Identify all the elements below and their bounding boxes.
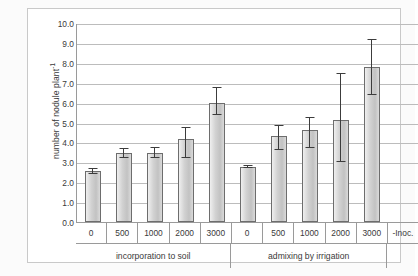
y-axis-tick-label: 3.0	[40, 158, 74, 168]
error-bar-cap-upper	[88, 168, 97, 169]
x-axis-tick-label: 3000	[201, 223, 232, 243]
y-axis-tick-label: 2.0	[40, 178, 74, 188]
x-axis-tick-label: 0	[232, 223, 263, 243]
error-bar	[181, 127, 190, 159]
error-bar-stem	[185, 127, 186, 159]
bar-slot	[170, 24, 201, 222]
bar-slot	[356, 24, 387, 222]
y-axis-tick-label: 7.0	[40, 79, 74, 89]
x-axis-tick-label: 500	[107, 223, 138, 243]
error-bar	[119, 148, 128, 158]
bar[interactable]	[147, 153, 163, 222]
y-axis-tick-label: 5.0	[40, 119, 74, 129]
y-axis-tick-label: 1.0	[40, 198, 74, 208]
bar[interactable]	[240, 167, 256, 222]
error-bar-stem	[340, 73, 341, 163]
error-bar-cap-upper	[367, 39, 376, 40]
error-bar-cap-lower	[181, 157, 190, 158]
x-axis-tick-label: -Inoc.	[388, 223, 418, 243]
y-axis-tick-label: 10.0	[40, 19, 74, 29]
bar[interactable]	[85, 171, 101, 222]
x-axis-tick-label: 2000	[170, 223, 201, 243]
error-bar-cap-lower	[212, 114, 221, 115]
error-bar-cap-upper	[243, 165, 252, 166]
x-axis-tick-label: 1000	[294, 223, 325, 243]
bar-slot	[201, 24, 232, 222]
chart-frame: number of nodule plant-1 10.09.08.07.06.…	[27, 8, 401, 263]
error-bar-cap-lower	[367, 94, 376, 95]
x-axis-tick-label: 3000	[357, 223, 388, 243]
bar-slot	[387, 24, 418, 222]
bar[interactable]	[116, 153, 132, 222]
error-bar-cap-lower	[274, 149, 283, 150]
error-bar-cap-lower	[243, 167, 252, 168]
error-bar-stem	[278, 125, 279, 151]
bar[interactable]	[209, 103, 225, 222]
error-bar-cap-upper	[305, 117, 314, 118]
y-axis-tick-label: 4.0	[40, 138, 74, 148]
error-bar-cap-upper	[181, 127, 190, 128]
y-axis-tick-labels: 10.09.08.07.06.05.04.03.02.01.00.0	[40, 17, 74, 223]
bar-slot	[232, 24, 263, 222]
x-axis-group-label: admixing by irrigation	[231, 244, 386, 268]
error-bar	[336, 73, 345, 163]
error-bar-stem	[216, 87, 217, 115]
error-bar-cap-lower	[305, 147, 314, 148]
error-bar-cap-lower	[336, 161, 345, 162]
x-axis-tick-label: 0	[76, 223, 107, 243]
error-bar-stem	[309, 117, 310, 149]
error-bar-stem	[371, 39, 372, 95]
y-axis-tick-label: 6.0	[40, 99, 74, 109]
x-axis-group-labels: incorporation to soiladmixing by irrigat…	[76, 244, 418, 268]
error-bar	[243, 165, 252, 168]
y-axis-tick-label: 9.0	[40, 39, 74, 49]
error-bar	[305, 117, 314, 149]
x-axis-tick-label: 2000	[326, 223, 357, 243]
error-bar	[150, 147, 159, 158]
plot-area	[76, 24, 418, 223]
error-bar-cap-upper	[274, 125, 283, 126]
x-axis-group-label	[387, 244, 418, 268]
error-bar-cap-upper	[119, 148, 128, 149]
bar-slot	[325, 24, 356, 222]
error-bar-cap-lower	[88, 173, 97, 174]
bar-slot	[108, 24, 139, 222]
bar-slot	[139, 24, 170, 222]
x-axis-category-labels: 05001000200030000500100020003000-Inoc.	[76, 223, 418, 244]
x-axis-tick-label: 1000	[138, 223, 169, 243]
error-bar-cap-lower	[150, 157, 159, 158]
error-bar-cap-upper	[150, 147, 159, 148]
bar-slot	[263, 24, 294, 222]
x-axis-tick-label: 500	[263, 223, 294, 243]
error-bar	[212, 87, 221, 115]
bar-slot	[77, 24, 108, 222]
error-bar-cap-upper	[212, 87, 221, 88]
error-bar-cap-lower	[119, 157, 128, 158]
bar-slot	[294, 24, 325, 222]
error-bar-cap-upper	[336, 73, 345, 74]
y-axis-tick-label: 0.0	[40, 218, 74, 228]
bar-series	[77, 24, 418, 222]
x-axis-group-label: incorporation to soil	[76, 244, 231, 268]
error-bar	[367, 39, 376, 95]
y-axis-tick-label: 8.0	[40, 59, 74, 69]
error-bar	[274, 125, 283, 151]
error-bar	[88, 168, 97, 174]
